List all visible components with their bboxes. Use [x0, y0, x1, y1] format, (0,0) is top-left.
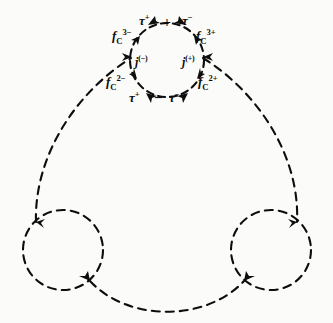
label-fc-2minus: fC2− [106, 74, 125, 92]
label-fc-3plus: fC3+ [196, 28, 215, 46]
label-fc-2plus: fC2+ [198, 74, 217, 92]
vertex-top-left [148, 16, 160, 25]
arrowhead-fc-3minus [131, 36, 140, 45]
label-plus-operator-top: + [163, 16, 171, 30]
label-fc-3minus: fC3− [112, 28, 131, 46]
bottom-connecting-arc [90, 281, 244, 312]
label-tau-plus-top: τ+ [139, 13, 149, 27]
label-j-minus: j(−) [135, 55, 148, 68]
label-tau-minus-bottom: τ− [169, 90, 179, 104]
diagram-svg [0, 0, 333, 323]
arrowhead-fc-2minus [129, 68, 137, 79]
label-tau-plus-bottom: τ+ [129, 90, 139, 104]
label-tau-minus-top: τ− [182, 13, 192, 27]
figure-canvas: τ+ + τ− fC3− fC3+ j(−) j(+) fC2− fC2+ τ+… [0, 0, 333, 323]
bottom-left-loop-circle [23, 210, 103, 290]
label-j-plus: j(+) [182, 55, 195, 68]
label-minus-operator-bottom: – [155, 90, 162, 104]
bottom-right-loop-circle [231, 210, 311, 290]
arrowhead-bottom-right-upper [288, 219, 297, 228]
arrowhead-bottom-right-lower [244, 271, 255, 281]
arrowhead-bottom-left-lower [79, 271, 90, 281]
